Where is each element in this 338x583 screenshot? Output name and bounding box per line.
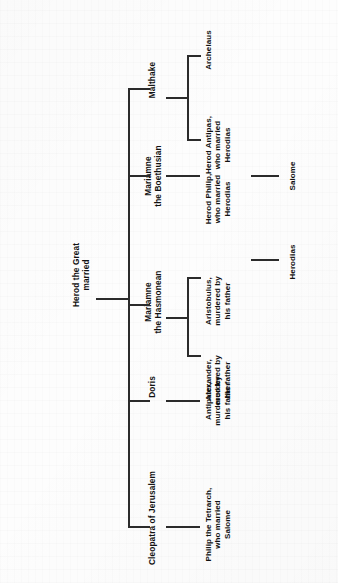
hasmonean-bracket: [187, 277, 189, 357]
malthake-bracket: [187, 55, 189, 141]
family-tree-diagram: Herod the Great married Malthake Archela…: [0, 0, 338, 583]
child-label-aristobulus: Aristobulus, murdered by his father: [204, 256, 232, 346]
doris-to-antipater: [166, 400, 200, 402]
grandchild-label-herodias: Herodias: [288, 227, 297, 297]
root-connector: [96, 298, 128, 300]
malthake-branch-antipas: [187, 139, 201, 141]
grandchild-label-salome: Salome: [288, 146, 297, 206]
wife-label-cleopatra-of-jerusalem: Cleopatra of Jerusalem: [148, 458, 158, 578]
spine-tick-doris: [128, 400, 150, 402]
spine-tick-cleopatra: [128, 526, 150, 528]
root-label-herod-the-great: Herod the Great married: [72, 220, 92, 330]
spine-tick-mariamne-hasmonean: [128, 304, 150, 306]
wife-label-malthake: Malthake: [148, 40, 158, 120]
wife-label-mariamne-hasmonean: Mariamne the Hasmonean: [144, 252, 164, 352]
hasmonean-branch-aristobulus: [187, 277, 201, 279]
child-label-philip-the-tetrarch: Philip the Tetrarch, who married Salome: [204, 477, 232, 572]
cleopatra-to-philip-tetrarch: [166, 526, 200, 528]
child-label-antipater: Antipater, murdered by his father: [204, 356, 232, 446]
child-label-herod-philip: Herod Philip, who married Herodias: [204, 154, 232, 244]
aristobulus-to-herodias: [251, 259, 279, 261]
child-label-archelaus: Archelaus: [204, 10, 213, 90]
boethusian-to-herod-philip: [166, 175, 200, 177]
spine-tick-mariamne-boethusian: [128, 175, 150, 177]
hasmonean-branch-alexander: [187, 355, 201, 357]
spine-tick-malthake: [128, 88, 150, 90]
herod-philip-to-salome: [251, 175, 279, 177]
malthake-branch-archelaus: [187, 55, 201, 57]
spine-line: [128, 88, 130, 528]
hasmonean-stem: [166, 317, 188, 319]
wife-label-doris: Doris: [148, 352, 158, 422]
malthake-stem: [166, 97, 188, 99]
